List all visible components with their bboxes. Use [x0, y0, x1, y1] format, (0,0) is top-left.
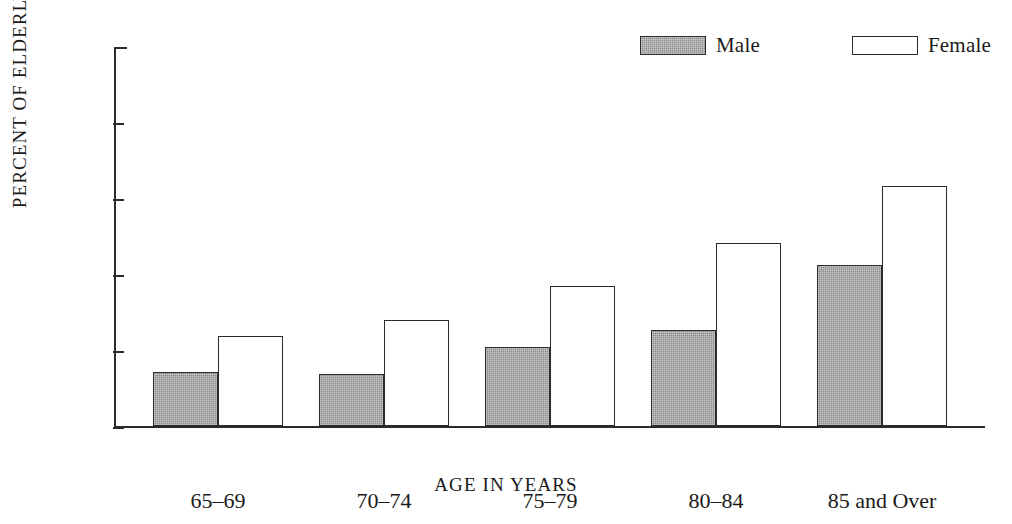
bar-male-1: [319, 374, 384, 426]
bar-female-1: [384, 320, 449, 426]
bar-female-4: [882, 186, 947, 427]
bar-series-group: [114, 46, 985, 426]
y-tick-mark: [113, 427, 124, 429]
bar-chart-figure: Male Female 020406080100 65–6970–7475–79…: [0, 0, 1012, 524]
bar-female-0: [218, 336, 283, 427]
bar-female-3: [716, 243, 781, 427]
bar-female-2: [550, 286, 615, 426]
bar-male-3: [651, 330, 716, 427]
x-axis-line: [114, 426, 985, 428]
y-axis-title: PERCENT OF ELDERLY: [9, 0, 31, 277]
x-axis-title: AGE IN YEARS: [0, 474, 1012, 496]
bar-male-0: [153, 372, 218, 426]
bar-male-2: [485, 347, 550, 426]
plot-area: 020406080100 65–6970–7475–7980–8485 and …: [114, 48, 985, 428]
bar-male-4: [817, 265, 882, 427]
